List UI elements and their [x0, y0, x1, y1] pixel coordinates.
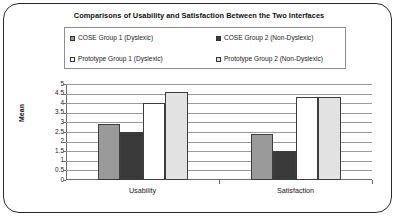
x-axis-category-label: Satisfaction: [219, 186, 372, 195]
legend-label-cose-group-2: COSE Group 2 (Non-Dyslexic): [224, 35, 313, 42]
bar: [296, 97, 319, 180]
legend-label-prototype-group-2: Prototype Group 2 (Non-Dyslexic): [224, 56, 323, 63]
y-axis-tick: [63, 84, 66, 85]
gridline: [66, 94, 372, 95]
bar: [98, 124, 121, 180]
y-axis-tick-label: 0: [48, 177, 64, 183]
bar: [273, 151, 296, 180]
y-axis-tick-label: 2.5: [48, 129, 64, 135]
chart-title: Comparisons of Usability and Satisfactio…: [0, 11, 398, 20]
y-axis-tick-label: 3.5: [48, 109, 64, 115]
legend-entry-prototype-group-1: Prototype Group 1 (Dyslexic): [65, 49, 214, 70]
y-axis-tick: [63, 170, 66, 171]
y-axis-tick-label: 2: [48, 138, 64, 144]
legend-label-cose-group-1: COSE Group 1 (Dyslexic): [78, 35, 153, 42]
legend-swatch-prototype-group-2: [216, 57, 221, 62]
bar: [165, 92, 188, 180]
bar: [120, 132, 143, 180]
y-axis-tick-label: 1.5: [48, 148, 64, 154]
y-axis-tick-label: 4: [48, 100, 64, 106]
y-axis-tick: [63, 180, 66, 181]
y-axis-tick: [63, 113, 66, 114]
legend-entry-cose-group-2: COSE Group 2 (Non-Dyslexic): [214, 28, 345, 49]
legend-row: COSE Group 1 (Dyslexic) COSE Group 2 (No…: [65, 28, 345, 49]
y-axis-tick: [63, 122, 66, 123]
y-axis-tick: [63, 132, 66, 133]
legend-swatch-cose-group-2: [216, 36, 221, 41]
y-axis-tick-label: 1: [48, 157, 64, 163]
legend-entry-cose-group-1: COSE Group 1 (Dyslexic): [65, 28, 214, 49]
legend-entry-prototype-group-2: Prototype Group 2 (Non-Dyslexic): [214, 49, 345, 70]
chart-legend: COSE Group 1 (Dyslexic) COSE Group 2 (No…: [64, 27, 346, 69]
y-axis-tick-label: 5: [48, 81, 64, 87]
y-axis-tick: [63, 94, 66, 95]
y-axis-tick: [63, 151, 66, 152]
y-axis-tick-label: 4.5: [48, 90, 64, 96]
bar: [251, 134, 274, 180]
y-axis-tick: [63, 161, 66, 162]
y-axis-tick-labels: 54.543.532.521.510.50: [46, 84, 64, 180]
gridline: [66, 84, 372, 85]
x-axis-category-label: Usability: [66, 186, 219, 195]
x-axis-tick: [372, 180, 373, 184]
x-axis-tick: [219, 180, 220, 184]
legend-swatch-prototype-group-1: [70, 57, 75, 62]
legend-row: Prototype Group 1 (Dyslexic) Prototype G…: [65, 49, 345, 70]
y-axis-tick: [63, 103, 66, 104]
y-axis-tick-label: 0.5: [48, 167, 64, 173]
y-axis-tick: [63, 142, 66, 143]
plot-area: [66, 84, 372, 180]
y-axis-title: Mean: [18, 104, 25, 122]
bar: [318, 97, 341, 180]
legend-label-prototype-group-1: Prototype Group 1 (Dyslexic): [78, 56, 163, 63]
legend-swatch-cose-group-1: [70, 36, 75, 41]
bar: [143, 103, 166, 180]
y-axis-tick-label: 3: [48, 119, 64, 125]
